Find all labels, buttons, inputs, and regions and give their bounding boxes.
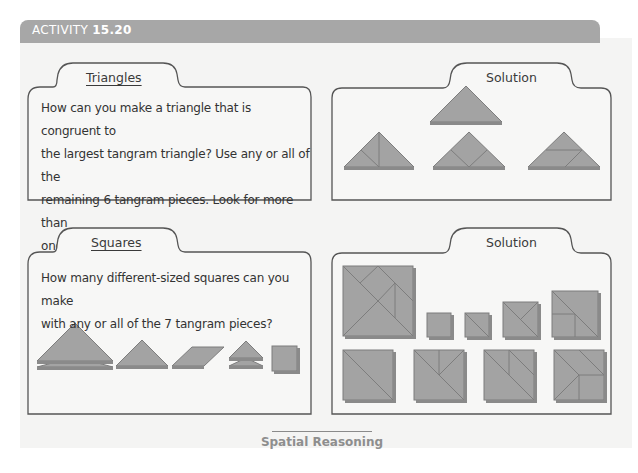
footer-label: Spatial Reasoning [250,435,394,449]
squares-solution-card: Solution [331,227,621,417]
squares-problem-card: Squares How many different-sized squares… [27,227,317,417]
card-outline [331,227,621,417]
tab-label-triangles: Triangles [86,70,142,85]
card-outline [331,62,621,202]
tab-label-solution: Solution [486,70,537,85]
tab-label-solution: Solution [486,235,537,250]
prompt-line: the largest tangram triangle? Use any or… [41,143,311,189]
activity-header-bar-right [300,20,600,43]
activity-title: ACTIVITY 15.20 [32,23,132,37]
activity-number: 15.20 [92,23,131,37]
footer-divider [272,431,372,432]
prompt-line: How many different-sized squares can you… [41,267,311,313]
activity-prefix: ACTIVITY [32,23,88,37]
tab-label-squares: Squares [91,235,142,250]
squares-prompt: How many different-sized squares can you… [41,267,311,336]
prompt-line: with any or all of the 7 tangram pieces? [41,313,311,336]
triangles-solution-card: Solution [331,62,621,202]
prompt-line: How can you make a triangle that is cong… [41,97,311,143]
triangles-problem-card: Triangles How can you make a triangle th… [27,62,317,202]
